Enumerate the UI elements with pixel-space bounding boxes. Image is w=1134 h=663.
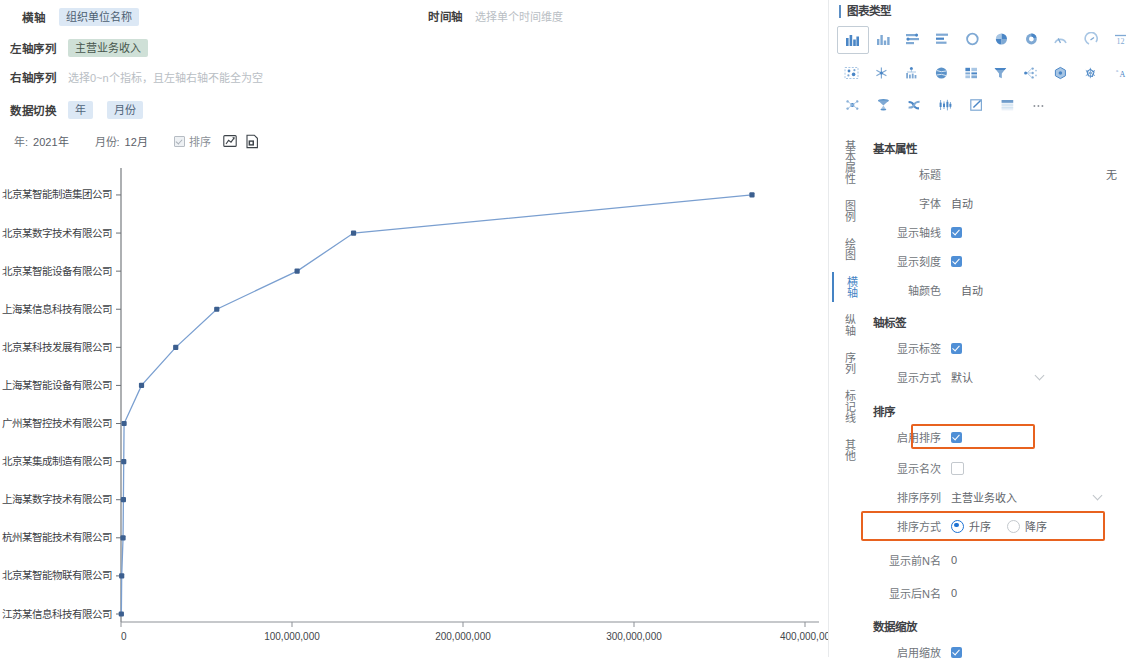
bottom-n-row: 显示后N名 0 xyxy=(863,585,1131,601)
data-switch-label: 数据切换 xyxy=(10,102,56,118)
edit-square-icon[interactable] xyxy=(961,92,992,118)
ring-icon[interactable] xyxy=(957,26,987,52)
candlestick-icon[interactable] xyxy=(930,92,961,118)
left-series-label: 左轴序列 xyxy=(10,40,56,56)
column-chart-icon[interactable] xyxy=(869,26,899,52)
chart-type-row: 12 xyxy=(837,26,1134,54)
horizontal-bar-icon[interactable] xyxy=(928,26,958,52)
sort-heading: 排序 xyxy=(873,403,1131,419)
sort-series-row[interactable]: 排序序列 主营业务收入 xyxy=(863,489,1131,505)
tab-x-axis[interactable]: 横轴 xyxy=(832,272,858,302)
show-axisline-checkbox[interactable] xyxy=(951,227,962,238)
svg-text:北京某智能物联有限公司: 北京某智能物联有限公司 xyxy=(2,569,112,581)
radar-icon[interactable] xyxy=(1075,60,1105,86)
tab-marker-line[interactable]: 标记线 xyxy=(834,386,856,427)
font-label: 字体 xyxy=(863,195,941,211)
sort-series-value: 主营业务收入 xyxy=(951,489,1017,505)
data-switch-option-year[interactable]: 年 xyxy=(68,101,93,119)
enable-sort-label: 启用排序 xyxy=(863,429,941,445)
right-series-field-row: 右轴序列 选择0~n个指标，且左轴右轴不能全为空 xyxy=(10,69,263,85)
x-axis-chip[interactable]: 组织单位名称 xyxy=(59,8,139,26)
semicircle-gauge-icon[interactable] xyxy=(1076,26,1106,52)
enable-zoom-checkbox[interactable] xyxy=(951,647,962,658)
pie-icon[interactable] xyxy=(987,26,1017,52)
tab-series[interactable]: 序列 xyxy=(834,348,856,378)
matrix-icon[interactable] xyxy=(956,60,986,86)
sort-series-label: 排序序列 xyxy=(863,489,941,505)
svg-text:200,000,000: 200,000,000 xyxy=(435,631,491,642)
tab-plot[interactable]: 绘图 xyxy=(834,234,856,264)
year-value: 2021年 xyxy=(33,133,68,149)
gauge-icon[interactable] xyxy=(1046,26,1076,52)
funnel-icon[interactable] xyxy=(986,60,1016,86)
bottom-n-value[interactable]: 0 xyxy=(951,587,957,599)
tab-y-axis[interactable]: 纵轴 xyxy=(834,310,856,340)
show-label-label: 显示标签 xyxy=(863,340,941,356)
scatter-map-icon[interactable] xyxy=(837,60,867,86)
line-chart: 江苏某信息科技有限公司北京某智能物联有限公司杭州某智能技术有限公司上海某数字技术… xyxy=(0,160,828,657)
edit-chart-icon[interactable] xyxy=(223,134,238,149)
show-axisline-row: 显示轴线 xyxy=(863,224,1131,240)
bar-chart-icon[interactable] xyxy=(837,26,869,54)
title-value[interactable]: 无 xyxy=(1106,166,1117,182)
font-value[interactable]: 自动 xyxy=(951,195,973,211)
sort-mode-descending-label: 降序 xyxy=(1025,518,1047,534)
left-series-chip[interactable]: 主营业务收入 xyxy=(68,39,148,57)
display-mode-label: 显示方式 xyxy=(863,369,941,385)
show-rank-checkbox[interactable] xyxy=(951,462,964,475)
bar-tree-icon[interactable] xyxy=(897,60,927,86)
polygon-icon[interactable] xyxy=(1046,60,1076,86)
sort-mode-ascending-radio[interactable] xyxy=(951,520,964,533)
month-selector[interactable]: 月份: 12月 xyxy=(95,133,148,149)
stacked-bar-icon[interactable] xyxy=(898,26,928,52)
svg-text:100,000,000: 100,000,000 xyxy=(264,631,320,642)
chevron-down-icon[interactable] xyxy=(1035,371,1045,381)
x-axis-properties: 基本属性 标题 无 字体 自动 显示轴线 显示刻度 轴颜色 自动 轴标签 xyxy=(863,136,1131,663)
tab-other[interactable]: 其他 xyxy=(834,435,856,465)
donut-icon[interactable] xyxy=(1017,26,1047,52)
tree-node-icon[interactable] xyxy=(1016,60,1046,86)
svg-text:上海某数字技术有限公司: 上海某数字技术有限公司 xyxy=(2,493,112,505)
axis-color-value[interactable]: 自动 xyxy=(961,282,983,298)
svg-text:上海某信息科技有限公司: 上海某信息科技有限公司 xyxy=(2,303,112,315)
svg-text:江苏某信息科技有限公司: 江苏某信息科技有限公司 xyxy=(2,608,112,620)
top-n-value[interactable]: 0 xyxy=(951,554,957,566)
svg-text:0: 0 xyxy=(121,631,127,642)
data-switch-field-row: 数据切换 年 月份 xyxy=(10,101,157,119)
globe-icon[interactable] xyxy=(926,60,956,86)
show-tick-label: 显示刻度 xyxy=(863,253,941,269)
svg-text:北京某数字技术有限公司: 北京某数字技术有限公司 xyxy=(2,227,112,239)
svg-text:400,000,00: 400,000,00 xyxy=(780,631,828,642)
time-axis-placeholder[interactable]: 选择单个时间维度 xyxy=(475,8,563,24)
enable-sort-checkbox[interactable] xyxy=(951,432,962,443)
tab-basic-properties[interactable]: 基本属性 xyxy=(834,136,856,188)
display-mode-row[interactable]: 显示方式 默认 xyxy=(863,369,1131,385)
show-tick-checkbox[interactable] xyxy=(951,256,962,267)
3d-funnel-icon[interactable] xyxy=(868,92,899,118)
chart-preview-pane: 横轴 组织单位名称 时间轴 选择单个时间维度 左轴序列 主营业务收入 右轴序列 … xyxy=(0,0,828,657)
sort-mode-descending-radio[interactable] xyxy=(1007,520,1020,533)
tab-legend[interactable]: 图例 xyxy=(834,196,856,226)
show-label-row: 显示标签 xyxy=(863,340,1131,356)
axis-color-row: 轴颜色 自动 xyxy=(863,282,1131,298)
year-selector[interactable]: 年: 2021年 xyxy=(14,133,69,149)
chart-type-title: 图表类型 xyxy=(839,5,891,18)
network-icon[interactable] xyxy=(837,92,868,118)
svg-text:300,000,000: 300,000,000 xyxy=(606,631,662,642)
sankey-icon[interactable] xyxy=(899,92,930,118)
show-label-checkbox[interactable] xyxy=(951,343,962,354)
chart-type-grid: 12 xyxy=(837,26,1134,124)
export-doc-icon[interactable] xyxy=(245,134,260,149)
snowflake-icon[interactable] xyxy=(867,60,897,86)
data-switch-option-month[interactable]: 月份 xyxy=(107,101,143,119)
number-12-icon[interactable]: 12 xyxy=(1105,26,1134,52)
word-cloud-icon[interactable]: aA xyxy=(1105,60,1134,86)
right-series-placeholder[interactable]: 选择0~n个指标，且左轴右轴不能全为空 xyxy=(68,69,263,85)
chart-canvas: 江苏某信息科技有限公司北京某智能物联有限公司杭州某智能技术有限公司上海某数字技术… xyxy=(0,160,828,657)
more-icon[interactable] xyxy=(1023,92,1054,118)
axis-label-heading: 轴标签 xyxy=(873,314,1131,330)
table-icon[interactable] xyxy=(992,92,1023,118)
chevron-down-icon[interactable] xyxy=(1093,491,1103,501)
sort-checkbox[interactable]: 排序 xyxy=(174,133,211,149)
